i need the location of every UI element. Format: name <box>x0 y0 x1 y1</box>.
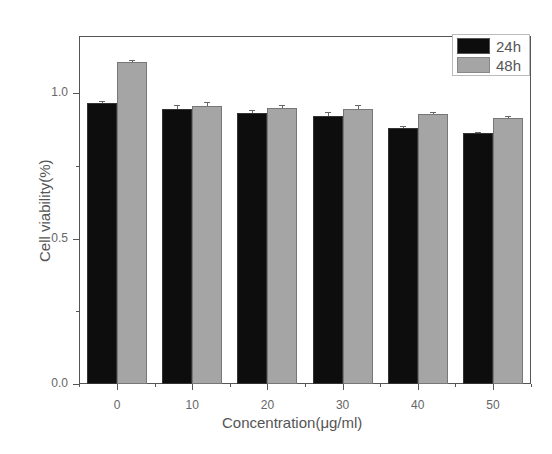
x-tick-minor <box>380 384 381 387</box>
x-tick-minor <box>79 384 80 387</box>
bar-48h-20 <box>267 108 297 384</box>
bar-24h-50 <box>463 133 493 384</box>
error-cap <box>174 105 180 106</box>
y-tick <box>76 311 79 312</box>
bar-chart: 0.00.51.001020304050 Concentration(μg/ml… <box>0 0 552 454</box>
x-tick <box>117 384 118 390</box>
legend: 24h 48h <box>452 34 530 76</box>
x-tick-label: 10 <box>172 398 212 412</box>
legend-label: 24h <box>496 38 521 55</box>
x-tick-label: 0 <box>97 398 137 412</box>
error-cap <box>325 112 331 113</box>
x-tick <box>418 384 419 390</box>
x-tick-minor <box>531 384 532 387</box>
legend-label: 48h <box>496 57 521 74</box>
bar-48h-40 <box>418 114 448 384</box>
x-tick <box>192 384 193 390</box>
x-tick <box>493 384 494 390</box>
y-tick <box>73 384 79 385</box>
error-cap <box>505 116 511 117</box>
x-tick-minor <box>230 384 231 387</box>
bar-48h-10 <box>192 106 222 384</box>
error-cap <box>204 102 210 103</box>
bar-24h-40 <box>388 128 418 384</box>
error-cap <box>99 101 105 102</box>
bar-48h-30 <box>343 109 373 384</box>
x-tick-label: 20 <box>247 398 287 412</box>
bar-48h-0 <box>117 62 147 384</box>
error-cap <box>249 110 255 111</box>
legend-item-48h: 48h <box>457 56 521 74</box>
legend-swatch-48h <box>457 57 490 73</box>
x-tick <box>267 384 268 390</box>
x-tick-minor <box>155 384 156 387</box>
error-cap <box>279 105 285 106</box>
y-tick <box>73 239 79 240</box>
error-cap <box>430 112 436 113</box>
x-axis-title: Concentration(μg/ml) <box>222 414 362 431</box>
error-cap <box>400 126 406 127</box>
x-tick-label: 30 <box>323 398 363 412</box>
bar-24h-0 <box>87 103 117 384</box>
error-cap <box>475 132 481 133</box>
y-tick <box>73 93 79 94</box>
y-tick-label: 0.0 <box>28 376 68 390</box>
legend-swatch-24h <box>457 38 490 54</box>
x-tick <box>343 384 344 390</box>
bar-24h-20 <box>237 113 267 384</box>
bar-24h-30 <box>313 116 343 384</box>
bar-48h-50 <box>493 118 523 384</box>
y-tick-label: 1.0 <box>28 85 68 99</box>
x-tick-label: 50 <box>473 398 513 412</box>
x-tick-minor <box>455 384 456 387</box>
y-tick <box>76 166 79 167</box>
bar-24h-10 <box>162 109 192 384</box>
legend-item-24h: 24h <box>457 37 521 55</box>
error-cap <box>129 60 135 61</box>
y-axis-title: Cell viability(%) <box>36 159 53 262</box>
x-tick-minor <box>305 384 306 387</box>
x-tick-label: 40 <box>398 398 438 412</box>
error-cap <box>355 105 361 106</box>
